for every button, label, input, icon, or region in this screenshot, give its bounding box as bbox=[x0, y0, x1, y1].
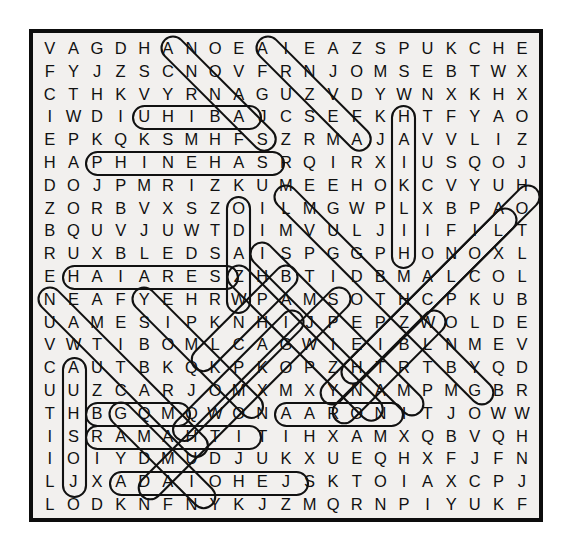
grid-cell[interactable]: U bbox=[416, 151, 440, 174]
grid-cell[interactable]: H bbox=[250, 265, 274, 288]
grid-cell[interactable]: H bbox=[132, 37, 156, 60]
grid-cell[interactable]: M bbox=[369, 60, 393, 83]
grid-cell[interactable]: Q bbox=[109, 128, 133, 151]
grid-cell[interactable]: M bbox=[132, 174, 156, 197]
grid-cell[interactable]: W bbox=[392, 83, 416, 106]
grid-cell[interactable]: J bbox=[250, 493, 274, 516]
grid-cell[interactable]: J bbox=[274, 470, 298, 493]
grid-cell[interactable]: Y bbox=[463, 174, 487, 197]
grid-cell[interactable]: Y bbox=[321, 379, 345, 402]
grid-cell[interactable]: O bbox=[463, 402, 487, 425]
grid-cell[interactable]: U bbox=[38, 379, 62, 402]
grid-cell[interactable]: X bbox=[416, 447, 440, 470]
grid-cell[interactable]: K bbox=[321, 470, 345, 493]
grid-cell[interactable]: N bbox=[369, 402, 393, 425]
grid-cell[interactable]: K bbox=[156, 356, 180, 379]
grid-cell[interactable]: O bbox=[203, 379, 227, 402]
grid-cell[interactable]: H bbox=[38, 151, 62, 174]
grid-cell[interactable]: L bbox=[132, 242, 156, 265]
grid-cell[interactable]: R bbox=[38, 242, 62, 265]
grid-cell[interactable]: A bbox=[227, 242, 251, 265]
grid-cell[interactable]: D bbox=[132, 447, 156, 470]
grid-cell[interactable]: H bbox=[487, 83, 511, 106]
grid-cell[interactable]: I bbox=[250, 219, 274, 242]
grid-cell[interactable]: H bbox=[250, 311, 274, 334]
grid-cell[interactable]: U bbox=[274, 83, 298, 106]
grid-cell[interactable]: K bbox=[227, 174, 251, 197]
grid-cell[interactable]: X bbox=[298, 447, 322, 470]
grid-cell[interactable]: C bbox=[416, 288, 440, 311]
grid-cell[interactable]: I bbox=[180, 470, 204, 493]
grid-cell[interactable]: M bbox=[298, 197, 322, 220]
grid-cell[interactable]: I bbox=[38, 425, 62, 448]
grid-cell[interactable]: L bbox=[463, 311, 487, 334]
grid-cell[interactable]: R bbox=[85, 197, 109, 220]
grid-cell[interactable]: I bbox=[274, 311, 298, 334]
grid-cell[interactable]: S bbox=[132, 60, 156, 83]
grid-cell[interactable]: I bbox=[109, 333, 133, 356]
grid-cell[interactable]: B bbox=[109, 242, 133, 265]
grid-cell[interactable]: A bbox=[62, 356, 86, 379]
grid-cell[interactable]: A bbox=[392, 128, 416, 151]
grid-cell[interactable]: Z bbox=[109, 60, 133, 83]
grid-cell[interactable]: E bbox=[109, 311, 133, 334]
grid-cell[interactable]: E bbox=[510, 311, 534, 334]
grid-cell[interactable]: T bbox=[510, 219, 534, 242]
grid-cell[interactable]: I bbox=[321, 151, 345, 174]
grid-cell[interactable]: M bbox=[439, 379, 463, 402]
grid-cell[interactable]: Q bbox=[180, 402, 204, 425]
grid-cell[interactable]: H bbox=[156, 105, 180, 128]
grid-cell[interactable]: A bbox=[250, 333, 274, 356]
grid-cell[interactable]: U bbox=[85, 219, 109, 242]
grid-cell[interactable]: N bbox=[345, 379, 369, 402]
grid-cell[interactable]: N bbox=[227, 311, 251, 334]
grid-cell[interactable]: T bbox=[298, 265, 322, 288]
grid-cell[interactable]: E bbox=[250, 470, 274, 493]
grid-cell[interactable]: U bbox=[321, 219, 345, 242]
grid-cell[interactable]: T bbox=[250, 425, 274, 448]
grid-cell[interactable]: A bbox=[345, 425, 369, 448]
grid-cell[interactable]: Q bbox=[298, 151, 322, 174]
grid-cell[interactable]: H bbox=[345, 356, 369, 379]
grid-cell[interactable]: F bbox=[439, 219, 463, 242]
grid-cell[interactable]: I bbox=[392, 219, 416, 242]
grid-cell[interactable]: V bbox=[416, 128, 440, 151]
grid-cell[interactable]: A bbox=[227, 151, 251, 174]
grid-cell[interactable]: G bbox=[85, 37, 109, 60]
grid-cell[interactable]: A bbox=[227, 83, 251, 106]
grid-cell[interactable]: H bbox=[62, 402, 86, 425]
grid-cell[interactable]: I bbox=[392, 470, 416, 493]
grid-cell[interactable]: A bbox=[321, 37, 345, 60]
grid-cell[interactable]: Q bbox=[369, 447, 393, 470]
grid-cell[interactable]: H bbox=[203, 128, 227, 151]
grid-cell[interactable]: O bbox=[510, 105, 534, 128]
grid-cell[interactable]: O bbox=[463, 242, 487, 265]
grid-cell[interactable]: Z bbox=[510, 128, 534, 151]
grid-cell[interactable]: O bbox=[369, 174, 393, 197]
grid-cell[interactable]: M bbox=[132, 425, 156, 448]
grid-cell[interactable]: P bbox=[416, 379, 440, 402]
grid-cell[interactable]: Y bbox=[439, 493, 463, 516]
grid-cell[interactable]: U bbox=[180, 447, 204, 470]
grid-cell[interactable]: I bbox=[321, 265, 345, 288]
grid-cell[interactable]: N bbox=[156, 151, 180, 174]
grid-cell[interactable]: O bbox=[274, 356, 298, 379]
grid-cell[interactable]: M bbox=[227, 379, 251, 402]
grid-cell[interactable]: N bbox=[38, 288, 62, 311]
grid-cell[interactable]: B bbox=[510, 288, 534, 311]
grid-cell[interactable]: H bbox=[180, 288, 204, 311]
grid-cell[interactable]: T bbox=[203, 219, 227, 242]
grid-cell[interactable]: D bbox=[227, 219, 251, 242]
grid-cell[interactable]: H bbox=[109, 151, 133, 174]
grid-cell[interactable]: K bbox=[463, 83, 487, 106]
grid-cell[interactable]: S bbox=[203, 265, 227, 288]
grid-cell[interactable]: M bbox=[156, 402, 180, 425]
grid-cell[interactable]: M bbox=[298, 493, 322, 516]
grid-cell[interactable]: O bbox=[203, 470, 227, 493]
grid-cell[interactable]: O bbox=[487, 265, 511, 288]
grid-cell[interactable]: P bbox=[487, 470, 511, 493]
grid-cell[interactable]: K bbox=[487, 493, 511, 516]
grid-cell[interactable]: N bbox=[369, 493, 393, 516]
grid-cell[interactable]: J bbox=[369, 219, 393, 242]
grid-cell[interactable]: B bbox=[439, 60, 463, 83]
